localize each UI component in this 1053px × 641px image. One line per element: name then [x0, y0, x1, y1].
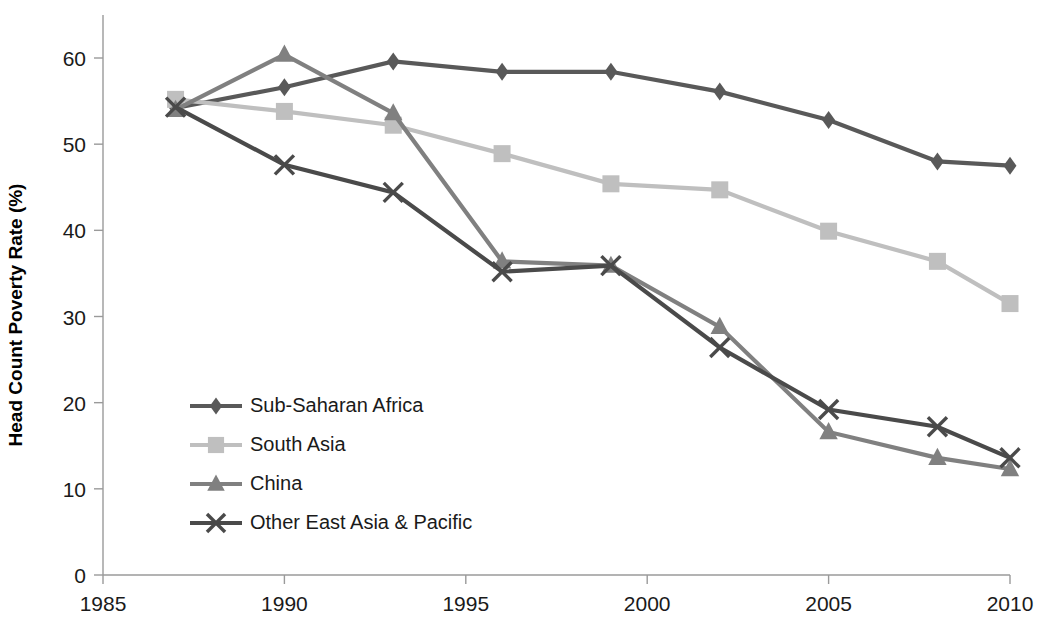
- legend-item-label: Other East Asia & Pacific: [250, 511, 472, 533]
- data-point-diamond-icon: [278, 78, 291, 96]
- data-point-square-icon: [929, 253, 946, 270]
- data-point-square-icon: [276, 103, 293, 120]
- line-chart: 0102030405060 198519901995200020052010 H…: [0, 0, 1053, 641]
- data-point-diamond-icon: [822, 111, 835, 129]
- series-line: [176, 99, 1010, 303]
- data-point-diamond-icon: [387, 52, 400, 70]
- y-tick-label: 50: [63, 133, 86, 156]
- x-tick-label: 2000: [624, 592, 671, 615]
- legend-item-label: Sub-Saharan Africa: [250, 394, 424, 416]
- y-axis-title: Head Count Poverty Rate (%): [5, 184, 26, 447]
- y-tick-label: 30: [63, 306, 86, 329]
- legend-square-icon: [208, 437, 224, 453]
- x-tick-label: 2005: [805, 592, 852, 615]
- legend-item-south-asia[interactable]: South Asia: [190, 433, 347, 455]
- legend-item-other-east-asia-pacific[interactable]: Other East Asia & Pacific: [190, 511, 472, 533]
- x-tick-label: 1990: [261, 592, 308, 615]
- data-point-square-icon: [711, 181, 728, 198]
- x-tick-label: 2010: [987, 592, 1034, 615]
- data-point-square-icon: [602, 175, 619, 192]
- y-tick-label: 40: [63, 219, 86, 242]
- y-tick-label: 60: [63, 47, 86, 70]
- x-tick-label: 1995: [442, 592, 489, 615]
- legend-diamond-icon: [210, 397, 222, 414]
- data-point-diamond-icon: [713, 83, 726, 101]
- data-point-triangle-icon: [275, 45, 293, 62]
- data-point-square-icon: [494, 145, 511, 162]
- legend-item-label: South Asia: [250, 433, 347, 455]
- data-point-cross-icon: [710, 338, 729, 357]
- x-tick-label: 1985: [80, 592, 127, 615]
- y-tick-label: 0: [74, 564, 86, 587]
- x-axis: 198519901995200020052010: [80, 575, 1034, 615]
- series-south-asia: [167, 91, 1018, 312]
- y-tick-label: 10: [63, 478, 86, 501]
- data-point-diamond-icon: [496, 63, 509, 81]
- chart-legend: Sub-Saharan AfricaSouth AsiaChinaOther E…: [190, 394, 472, 533]
- y-tick-label: 20: [63, 392, 86, 415]
- data-point-diamond-icon: [604, 63, 617, 81]
- legend-item-sub-saharan-africa[interactable]: Sub-Saharan Africa: [190, 394, 424, 416]
- data-point-square-icon: [1002, 295, 1019, 312]
- data-point-square-icon: [820, 223, 837, 240]
- chart-container: 0102030405060 198519901995200020052010 H…: [0, 0, 1053, 641]
- data-point-diamond-icon: [931, 152, 944, 170]
- y-axis: 0102030405060: [63, 15, 103, 587]
- data-point-diamond-icon: [1004, 157, 1017, 175]
- legend-item-label: China: [250, 472, 303, 494]
- legend-item-china[interactable]: China: [190, 472, 303, 494]
